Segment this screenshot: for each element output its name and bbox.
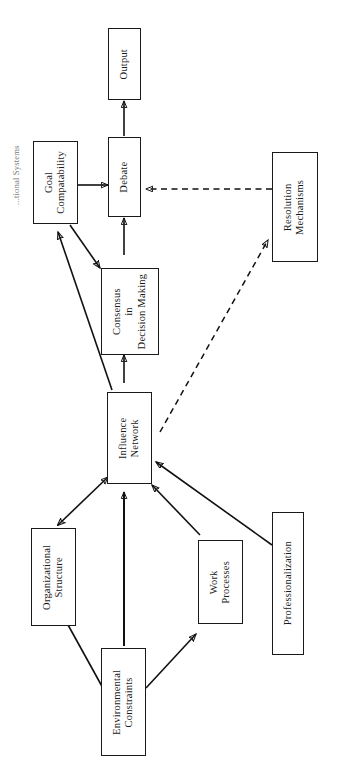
node-goal-compatability-label: Goal Compatability [43, 151, 68, 214]
node-environmental-constraints-label: Environmental Constraints [111, 669, 136, 734]
figure-canvas: ...tional Systems [0, 0, 339, 771]
node-output-label: Output [118, 49, 130, 79]
edge-professionalization-to-influence [156, 462, 272, 545]
node-professionalization-label: Professionalization [282, 541, 294, 625]
node-work-processes[interactable]: Work Processes [198, 540, 243, 624]
connector-layer [0, 0, 339, 771]
node-consensus-decision-making[interactable]: Consensus in Decision Making [101, 268, 159, 355]
node-organizational-structure-label: Organizational Structure [41, 544, 66, 609]
node-resolution-mechanisms[interactable]: Resolution Mechanisms [272, 152, 318, 262]
node-output[interactable]: Output [108, 28, 141, 100]
node-resolution-mechanisms-label: Resolution Mechanisms [283, 179, 308, 234]
edge-orgstructure-influence [58, 477, 108, 525]
node-work-processes-label: Work Processes [208, 561, 233, 604]
node-consensus-decision-making-label: Consensus in Decision Making [111, 274, 148, 350]
node-goal-compatability[interactable]: Goal Compatability [33, 141, 78, 224]
edge-goal-to-consensus [70, 225, 100, 268]
edge-influence-to-resolution [160, 240, 268, 432]
node-influence-network-label: Influence Network [117, 417, 142, 458]
node-environmental-constraints[interactable]: Environmental Constraints [101, 648, 146, 756]
node-organizational-structure[interactable]: Organizational Structure [31, 528, 76, 626]
node-debate-label: Debate [118, 162, 130, 193]
edge-workprocesses-to-influence [152, 485, 200, 535]
node-professionalization[interactable]: Professionalization [272, 512, 304, 655]
node-influence-network[interactable]: Influence Network [107, 392, 152, 484]
edge-environmental-to-workprocesses [146, 634, 196, 688]
node-debate[interactable]: Debate [108, 137, 141, 217]
